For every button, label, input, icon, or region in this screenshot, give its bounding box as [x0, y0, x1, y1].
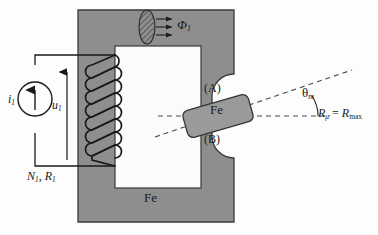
core-material-label: Fe [144, 190, 157, 206]
rotor-angle-label: θm [302, 85, 314, 101]
voltage-label: u1 [52, 98, 62, 113]
rotor-material-label: Fe [210, 102, 223, 118]
reluctance-label: Rμ = Rmax [318, 106, 362, 121]
pole-b-label: (B) [204, 132, 220, 147]
winding-parameters-label: N1, R1 [27, 169, 56, 184]
current-label: i1 [8, 92, 15, 107]
flux-cross-section-icon [139, 10, 155, 44]
pole-a-label: (A) [204, 81, 221, 96]
flux-label: Φ1 [177, 17, 191, 33]
figure-canvas: Φ1 i1 u1 N1, R1 Fe (A) (B) Fe θm Rμ = Rm… [0, 0, 378, 235]
